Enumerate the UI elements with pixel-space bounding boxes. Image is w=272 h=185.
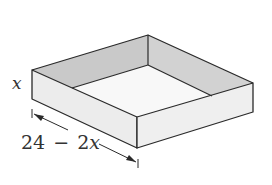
open-box-diagram: x 24 − 2x xyxy=(0,0,272,185)
height-label: x xyxy=(12,73,22,93)
side-label-number: 24 xyxy=(21,131,45,153)
side-label-coeff: 2 xyxy=(77,131,89,153)
arrowhead-upper-icon xyxy=(34,114,44,121)
side-label-var: x xyxy=(89,131,100,153)
arrowhead-lower-icon xyxy=(126,155,136,162)
side-length-label: 24 − 2x xyxy=(21,131,100,153)
side-label-minus: − xyxy=(53,131,69,153)
